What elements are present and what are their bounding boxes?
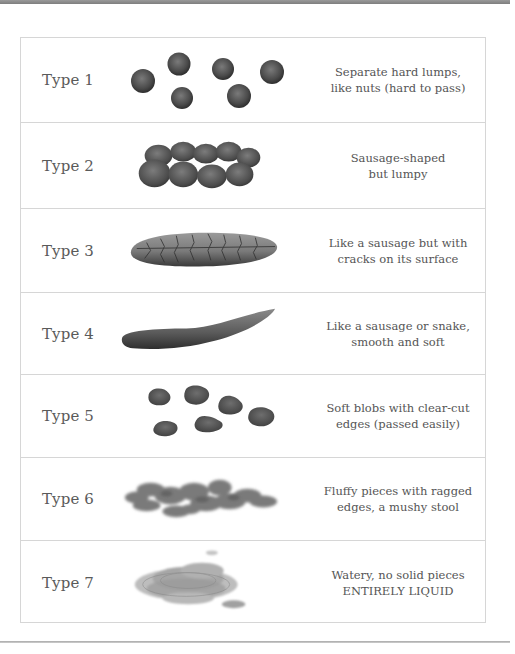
type-label: Type 2 bbox=[42, 157, 94, 175]
watery-liquid-illustration-icon bbox=[116, 541, 286, 624]
description: Sausage-shaped but lumpy bbox=[313, 150, 483, 182]
lumpy-sausage-illustration-icon bbox=[116, 123, 286, 208]
chart-row-type-3: Type 3 bbox=[21, 208, 485, 292]
chart-row-type-2: Type 2 bbox=[21, 122, 485, 208]
description: Separate hard lumps, like nuts (hard to … bbox=[313, 64, 483, 96]
description: Like a sausage but with cracks on its su… bbox=[313, 235, 483, 267]
bottom-rule bbox=[0, 641, 510, 643]
chart-row-type-4: Type 4 Like a sausage or snake, smooth a… bbox=[21, 292, 485, 374]
description: Fluffy pieces with ragged edges, a mushy… bbox=[313, 483, 483, 515]
type-label: Type 6 bbox=[42, 490, 94, 508]
hard-lumps-illustration-icon bbox=[116, 38, 286, 122]
type-label: Type 4 bbox=[42, 325, 94, 343]
type-label: Type 5 bbox=[42, 407, 94, 425]
chart-row-type-5: Type 5 Soft blobs with clear-cut edges bbox=[21, 374, 485, 457]
top-bar bbox=[0, 0, 510, 4]
chart-row-type-1: Type 1 Separate hard lumps, bbox=[21, 38, 485, 122]
description: Like a sausage or snake, smooth and soft bbox=[313, 318, 483, 350]
stool-chart-table: Type 1 Separate hard lumps, bbox=[20, 37, 486, 623]
smooth-snake-illustration-icon bbox=[116, 293, 286, 374]
description: Watery, no solid pieces ENTIRELY LIQUID bbox=[313, 567, 483, 599]
chart-row-type-6: Type 6 bbox=[21, 457, 485, 540]
fluffy-pieces-illustration-icon bbox=[116, 458, 286, 540]
soft-blobs-illustration-icon bbox=[116, 375, 286, 457]
type-label: Type 1 bbox=[42, 71, 94, 89]
chart-row-type-7: Type 7 bbox=[21, 540, 485, 624]
description: Soft blobs with clear-cut edges (passed … bbox=[313, 400, 483, 432]
type-label: Type 7 bbox=[42, 574, 94, 592]
cracked-sausage-illustration-icon bbox=[116, 209, 286, 292]
type-label: Type 3 bbox=[42, 242, 94, 260]
